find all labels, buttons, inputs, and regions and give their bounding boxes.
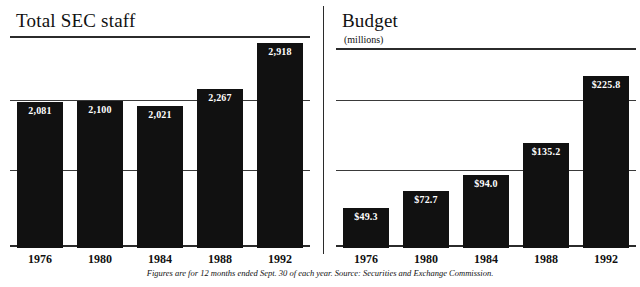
right-title-rule [336, 48, 636, 50]
bar-value-label: 2,081 [17, 105, 63, 116]
bar-value-label: $72.7 [403, 194, 449, 205]
bar-group-1988: 2,267 [197, 40, 243, 248]
x-tick-label: 1980 [403, 252, 449, 267]
panel-budget: Budget (millions) $49.3 $72.7 [336, 8, 636, 266]
x-tick-label: 1984 [137, 252, 183, 267]
bar-value-label: $94.0 [463, 178, 509, 189]
bar-value-label: 2,100 [77, 104, 123, 115]
bar-group-1984: $94.0 [463, 52, 509, 248]
bar-value-label: 2,021 [137, 109, 183, 120]
bar-value-label: $49.3 [343, 211, 389, 222]
right-panel-title: Budget [342, 10, 398, 32]
bar-group-1984: 2,021 [137, 40, 183, 248]
left-x-axis: 1976 1980 1984 1988 1992 [10, 252, 310, 267]
table-row: $49.3 [343, 208, 389, 248]
bar-value-label: 2,918 [257, 46, 303, 57]
table-row: 2,918 [257, 43, 303, 248]
right-plot-area: $49.3 $72.7 $94.0 $135.2 [336, 52, 636, 248]
source-footnote: Figures are for 12 months ended Sept. 30… [0, 268, 640, 278]
x-tick-label: 1980 [77, 252, 123, 267]
panel-divider [323, 6, 324, 254]
table-row: $225.8 [583, 76, 629, 248]
bar-group-1992: $225.8 [583, 52, 629, 248]
x-tick-label: 1992 [257, 252, 303, 267]
x-tick-label: 1992 [583, 252, 629, 267]
panel-total-sec-staff: Total SEC staff 2,081 2,100 [10, 8, 310, 266]
x-tick-label: 1988 [197, 252, 243, 267]
left-bars: 2,081 2,100 2,021 2,267 [10, 40, 310, 248]
bar-group-1988: $135.2 [523, 52, 569, 248]
table-row: $94.0 [463, 175, 509, 248]
chart-page: Total SEC staff 2,081 2,100 [0, 0, 640, 287]
table-row: 2,021 [137, 106, 183, 248]
bar-value-label: $225.8 [583, 79, 629, 90]
right-bars: $49.3 $72.7 $94.0 $135.2 [336, 52, 636, 248]
table-row: $135.2 [523, 143, 569, 248]
table-row: 2,100 [77, 101, 123, 248]
x-tick-label: 1988 [523, 252, 569, 267]
right-x-axis: 1976 1980 1984 1988 1992 [336, 252, 636, 267]
table-row: $72.7 [403, 191, 449, 248]
left-plot-area: 2,081 2,100 2,021 2,267 [10, 40, 310, 248]
left-title-rule [10, 36, 310, 38]
x-tick-label: 1976 [17, 252, 63, 267]
bar-group-1976: $49.3 [343, 52, 389, 248]
x-tick-label: 1984 [463, 252, 509, 267]
bar-group-1980: $72.7 [403, 52, 449, 248]
bar-value-label: $135.2 [523, 146, 569, 157]
table-row: 2,267 [197, 89, 243, 248]
x-tick-label: 1976 [343, 252, 389, 267]
bar-group-1992: 2,918 [257, 40, 303, 248]
left-panel-title: Total SEC staff [16, 10, 136, 32]
table-row: 2,081 [17, 102, 63, 248]
bar-group-1976: 2,081 [17, 40, 63, 248]
bar-group-1980: 2,100 [77, 40, 123, 248]
right-panel-subtitle: (millions) [344, 34, 383, 45]
bar-value-label: 2,267 [197, 92, 243, 103]
